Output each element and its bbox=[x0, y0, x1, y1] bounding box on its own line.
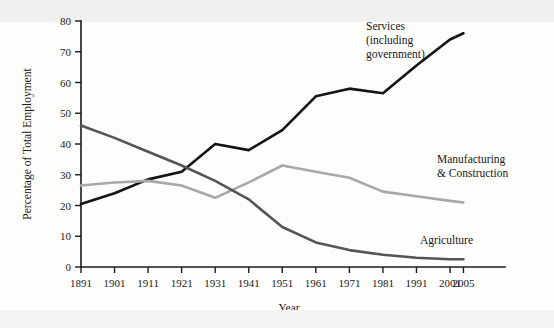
x-axis-ticks: 1891190119111921193119411951196119711981… bbox=[70, 267, 475, 289]
y-tick-label: 40 bbox=[60, 138, 72, 150]
x-tick-label: 1891 bbox=[70, 277, 92, 289]
chart-figure: 01020304050607080 1891190119111921193119… bbox=[0, 0, 554, 328]
series-label-0: Services bbox=[366, 20, 405, 32]
series-annotations: Services(includinggovernment)Manufacturi… bbox=[366, 20, 508, 247]
x-tick-label: 1941 bbox=[238, 277, 260, 289]
data-series-group bbox=[81, 33, 463, 259]
x-axis-title: Year bbox=[278, 302, 299, 314]
x-tick-label: 1921 bbox=[171, 277, 193, 289]
x-tick-label: 1981 bbox=[372, 277, 394, 289]
y-tick-label: 30 bbox=[60, 169, 72, 181]
x-tick-label: 1911 bbox=[137, 277, 159, 289]
x-tick-label: 1951 bbox=[271, 277, 293, 289]
x-tick-label: 2005 bbox=[452, 277, 475, 289]
y-axis-ticks: 01020304050607080 bbox=[60, 15, 81, 273]
x-tick-label: 1991 bbox=[405, 277, 427, 289]
series-line-2 bbox=[81, 126, 463, 260]
y-tick-label: 70 bbox=[60, 46, 72, 58]
series-label-1: Manufacturing bbox=[437, 153, 506, 166]
employment-line-chart: 01020304050607080 1891190119111921193119… bbox=[0, 0, 554, 328]
series-label-2: Agriculture bbox=[420, 234, 473, 247]
x-tick-label: 1961 bbox=[305, 277, 327, 289]
y-axis-title: Percentage of Total Employment bbox=[21, 68, 34, 220]
y-tick-label: 60 bbox=[60, 77, 72, 89]
x-tick-label: 1901 bbox=[104, 277, 126, 289]
series-label-0: government) bbox=[366, 48, 425, 61]
x-tick-label: 1971 bbox=[338, 277, 360, 289]
y-tick-label: 20 bbox=[60, 200, 72, 212]
x-tick-label: 1931 bbox=[204, 277, 226, 289]
y-tick-label: 50 bbox=[60, 107, 72, 119]
series-label-1: & Construction bbox=[437, 167, 508, 179]
y-tick-label: 80 bbox=[60, 15, 72, 27]
series-label-0: (including bbox=[366, 34, 414, 47]
y-tick-label: 0 bbox=[66, 261, 72, 273]
y-tick-label: 10 bbox=[60, 230, 72, 242]
